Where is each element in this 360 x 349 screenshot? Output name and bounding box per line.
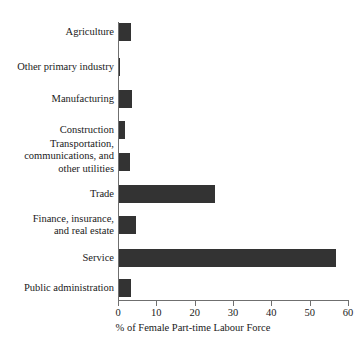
bar [119, 216, 136, 234]
category-label: Service [0, 252, 114, 264]
bar [119, 23, 131, 41]
bar [119, 185, 215, 203]
x-axis-title: % of Female Part-time Labour Force [0, 322, 360, 333]
x-axis-tick-label: 60 [333, 307, 360, 319]
bar [119, 279, 131, 297]
bar [119, 153, 130, 171]
category-label: Transportation, communications, and othe… [0, 138, 114, 175]
x-axis-tick-label: 40 [256, 307, 286, 319]
category-label: Finance, insurance, and real estate [0, 213, 114, 238]
x-axis-tick [310, 301, 311, 306]
x-axis-tick-label: 50 [295, 307, 325, 319]
bar [119, 121, 125, 139]
bar-chart: AgricultureOther primary industryManufac… [0, 0, 360, 349]
x-axis-tick [233, 301, 234, 306]
category-label: Agriculture [0, 26, 114, 38]
x-axis-title-text: % of Female Part-time Labour Force [116, 322, 271, 333]
bar [119, 58, 120, 76]
bar [119, 90, 132, 108]
bar [119, 249, 336, 267]
category-label: Manufacturing [0, 93, 114, 105]
x-axis-tick [156, 301, 157, 306]
y-axis-line [118, 22, 119, 301]
category-label: Construction [0, 124, 114, 136]
x-axis-tick-label: 0 [103, 307, 133, 319]
x-axis-tick-label: 20 [180, 307, 210, 319]
x-axis-tick-label: 10 [141, 307, 171, 319]
category-label: Public administration [0, 282, 114, 294]
x-axis-tick [195, 301, 196, 306]
category-label: Trade [0, 188, 114, 200]
x-axis-tick-label: 30 [218, 307, 248, 319]
x-axis-tick [118, 301, 119, 306]
x-axis-tick [348, 301, 349, 306]
category-label: Other primary industry [0, 61, 114, 73]
x-axis-tick [271, 301, 272, 306]
